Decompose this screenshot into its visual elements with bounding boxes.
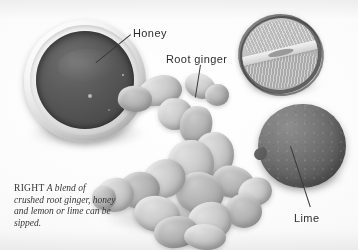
root-ginger <box>92 74 282 250</box>
callout-label-root-ginger: Root ginger <box>166 53 227 65</box>
callout-label-honey: Honey <box>133 27 167 39</box>
callout-label-lime: Lime <box>294 212 319 224</box>
figure-caption: RIGHT A blend of crushed root ginger, ho… <box>14 183 118 229</box>
caption-lead-in: RIGHT <box>14 183 45 193</box>
figure-photograph: Honey Root ginger Lime RIGHT A blend of … <box>0 0 358 250</box>
